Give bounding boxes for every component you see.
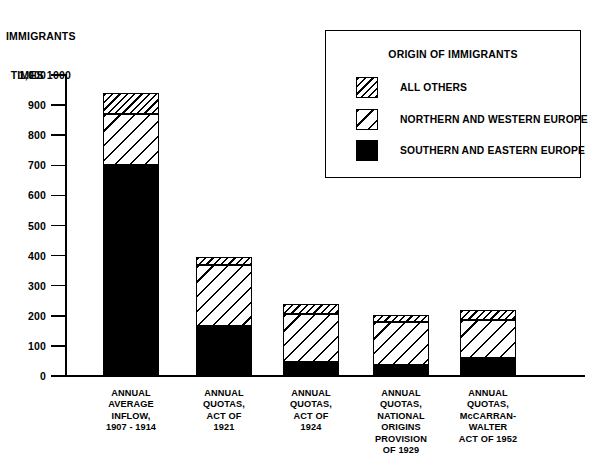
y-axis-tick-label: 700 [0,159,46,171]
y-axis-tick [51,195,66,197]
bar-1 [103,93,159,376]
bar-2 [196,257,252,376]
y-axis-tick-label: 900 [0,99,46,111]
y-axis-tick-label: 200 [0,310,46,322]
legend-label-all-others: ALL OTHERS [400,82,467,93]
category-label-5: ANNUALQUOTAS,McCARRAN-WALTERACT OF 1952 [433,388,543,445]
bar-3-segment-3 [283,304,339,314]
y-axis-tick-label: 100 [0,340,46,352]
bar-5-segment-3 [460,310,516,319]
y-axis-tick [51,225,66,227]
y-axis-tick [51,134,66,136]
bar-2-segment-1 [196,326,252,376]
y-axis-tick [51,315,66,317]
immigration-stacked-bar-chart: IMMIGRANTS TIMES 1000 1,0009008007006005… [0,0,591,458]
bar-5-segment-1 [460,358,516,376]
y-axis-tick [51,375,66,377]
y-axis-tick [51,255,66,257]
y-axis-tick-label: 800 [0,129,46,141]
y-axis-tick-label: 600 [0,189,46,201]
y-axis-tick-label: 1,000 [0,69,46,81]
bar-5 [460,310,516,376]
category-label-line: ACT OF 1952 [433,434,543,445]
bar-2-segment-3 [196,257,252,265]
y-axis-tick-label: 500 [0,220,46,232]
y-axis-tick [51,165,66,167]
y-axis-tick-label: 300 [0,280,46,292]
y-axis-tick [51,74,66,76]
bar-3-segment-2 [283,314,339,362]
legend-entry-southern-eastern-europe: SOUTHERN AND EASTERN EUROPE [356,139,585,161]
bar-4-segment-2 [373,322,429,365]
bar-1-segment-3 [103,93,159,114]
bar-1-segment-1 [103,165,159,376]
legend-title: ORIGIN OF IMMIGRANTS [326,48,580,60]
category-label-line: QUOTAS, [433,399,543,410]
legend-label-northern-western-europe: NORTHERN AND WESTERN EUROPE [400,114,588,125]
y-axis-tick [51,104,66,106]
legend-swatch-southern-eastern-europe-icon [356,140,378,161]
legend-swatch-northern-western-europe-icon [356,109,378,130]
bar-4 [373,315,429,376]
legend-box: ORIGIN OF IMMIGRANTS ALL OTHERS NORTHERN… [325,30,581,178]
bar-3 [283,304,339,376]
bar-4-segment-3 [373,315,429,322]
legend-entry-all-others: ALL OTHERS [356,76,467,98]
legend-label-southern-eastern-europe: SOUTHERN AND EASTERN EUROPE [400,145,585,156]
category-label-line: OF 1929 [346,445,456,456]
y-axis-tick-label: 400 [0,250,46,262]
category-label-line: WALTER [433,422,543,433]
y-axis-tick [51,285,66,287]
bar-2-segment-2 [196,265,252,327]
legend-swatch-all-others-icon [356,77,378,98]
bar-4-segment-1 [373,365,429,376]
legend-entry-northern-western-europe: NORTHERN AND WESTERN EUROPE [356,108,588,130]
bar-3-segment-1 [283,362,339,376]
bar-5-segment-2 [460,320,516,358]
y-axis-tick-label: 0 [0,370,46,382]
bar-1-segment-2 [103,114,159,165]
category-label-line: ANNUAL [433,388,543,399]
y-axis-tick [51,345,66,347]
category-label-line: McCARRAN- [433,411,543,422]
